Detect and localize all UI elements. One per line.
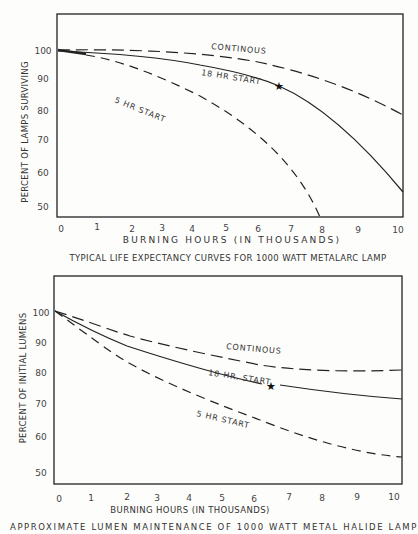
y-tick: 100: [32, 308, 49, 318]
label-continous: CONTINOUS: [211, 42, 267, 56]
x-tick: 10: [388, 492, 400, 502]
label-5hr-start: 5 HR START: [113, 96, 167, 125]
y-axis-label: PERCENT OF LAMPS SURVIVING: [20, 61, 30, 203]
x-tick: 7: [286, 492, 292, 502]
x-tick: 6: [255, 224, 261, 234]
y-tick: 80: [37, 106, 49, 116]
x-tick: 1: [88, 493, 94, 503]
y-tick: 90: [37, 74, 49, 84]
x-tick: 4: [186, 493, 192, 503]
label-continous: CONTINOUS: [226, 342, 282, 356]
life-expectancy-chart: PERCENT OF LAMPS SURVIVING 100 90 80 70 …: [20, 14, 404, 263]
y-tick: 70: [35, 399, 47, 409]
5hr-start-curve: [86, 55, 320, 217]
y-ticks: 100 90 80 70 60 50: [32, 308, 49, 478]
x-tick: 7: [288, 224, 294, 234]
y-axis-label: PERCENT OF INITIAL LUMENS: [18, 313, 28, 444]
x-tick: 4: [189, 224, 195, 234]
x-tick: 3: [159, 223, 165, 233]
lumen-maintenance-chart: PERCENT OF INITIAL LUMENS 100 90 80 70 6…: [10, 276, 418, 532]
continous-curve: [58, 50, 403, 115]
y-tick: 100: [34, 46, 51, 56]
chart-caption: APPROXIMATE LUMEN MAINTENANCE OF 1000 WA…: [10, 522, 418, 532]
y-tick: 60: [35, 432, 47, 442]
x-tick: 5: [219, 493, 225, 503]
x-tick: 2: [124, 492, 130, 502]
x-tick: 0: [58, 224, 64, 234]
y-tick: 80: [35, 368, 47, 378]
x-tick: 10: [392, 225, 404, 235]
y-tick: 90: [35, 338, 47, 348]
x-tick: 3: [154, 493, 160, 503]
label-5hr-start: 5 HR START: [196, 409, 251, 430]
5hr-start-curve: [55, 311, 402, 457]
y-tick: 70: [37, 135, 49, 145]
continous-curve: [55, 311, 402, 371]
x-tick: 1: [94, 222, 100, 232]
figure: PERCENT OF LAMPS SURVIVING 100 90 80 70 …: [0, 0, 418, 534]
x-axis-label: BURNING HOURS (IN THOUSANDS): [123, 235, 341, 245]
y-tick: 60: [37, 168, 49, 178]
x-tick: 0: [56, 494, 62, 504]
x-axis-label: BURNING HOURS (IN THOUSANDS): [110, 505, 269, 515]
x-tick: 5: [223, 223, 229, 233]
x-ticks: 0 1 2 3 4 5 6 7 8 9 10: [58, 222, 404, 235]
chart-caption: TYPICAL LIFE EXPECTANCY CURVES FOR 1000 …: [68, 253, 386, 263]
x-tick: 8: [319, 493, 325, 503]
star-marker-icon: ★: [274, 80, 284, 93]
x-tick: 2: [129, 224, 135, 234]
x-tick: 6: [251, 494, 257, 504]
y-tick: 50: [37, 202, 49, 212]
x-ticks: 0 1 2 3 4 5 6 7 8 9 10: [56, 492, 400, 504]
label-18hr-start: 18 HR. START: [208, 368, 272, 387]
x-tick: 8: [319, 225, 325, 235]
x-tick: 9: [354, 492, 360, 502]
18hr-start-curve-continued: [280, 385, 402, 399]
x-tick: 9: [355, 225, 361, 235]
y-ticks: 100 90 80 70 60 50: [34, 46, 51, 212]
y-tick: 50: [35, 468, 47, 478]
